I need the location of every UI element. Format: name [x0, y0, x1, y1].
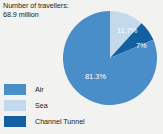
legend-label-air: Air [35, 85, 44, 94]
legend-swatch-sea-icon [4, 100, 26, 111]
pie-label-air: 81.3% [85, 72, 106, 81]
legend-label-sea: Sea [35, 101, 48, 110]
legend-swatch-channel-tunnel-icon [4, 116, 26, 127]
pie-chart-figure: Number of travellers: 68.9 million 11.7%… [0, 0, 163, 134]
pie-label-sea: 11.7% [117, 26, 138, 35]
legend-swatch-air-icon [4, 84, 26, 95]
chart-legend: Air Sea Channel Tunnel [4, 81, 96, 129]
legend-label-channel-tunnel: Channel Tunnel [35, 117, 85, 126]
legend-item-air[interactable]: Air [4, 81, 96, 97]
legend-item-sea[interactable]: Sea [4, 97, 96, 113]
legend-item-channel-tunnel[interactable]: Channel Tunnel [4, 113, 96, 129]
chart-title-line-1: Number of travellers: [3, 1, 89, 10]
pie-label-channel-tunnel: 7% [136, 41, 147, 50]
